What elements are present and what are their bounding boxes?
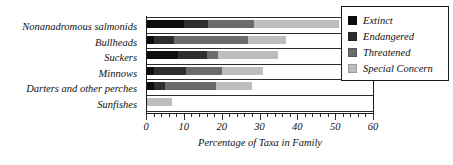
legend-swatch-endangered [348,32,357,41]
legend-swatch-special-concern [348,64,357,73]
x-tick-label: 0 [143,121,148,133]
bar-segment-threatened [208,20,253,28]
x-axis-ticks [146,114,374,120]
bar-segment-endangered [178,51,206,59]
bar-segment-endangered [154,36,175,44]
bar-segment-special-concern [248,36,286,44]
bar-segment-extinct [146,82,154,90]
chart-legend: Extinct Endangered Threatened Special Co… [341,6,449,81]
category-axis-labels: Nonanadromous salmonidsBullheadsSuckersM… [0,18,141,112]
row-separator-line [146,48,373,49]
stacked-bar-chart: Nonanadromous salmonidsBullheadsSuckersM… [0,0,453,165]
x-tick-minor [350,114,351,117]
legend-item-special-concern: Special Concern [348,60,444,76]
bar-suckers [146,51,278,59]
bar-segment-endangered [154,67,186,75]
x-tick-label: 50 [330,121,341,133]
x-tick-minor [154,114,155,117]
category-label: Sunfishes [0,99,137,110]
x-tick-label: 60 [368,121,379,133]
x-tick-minor [176,114,177,117]
x-axis-tick-labels: 0102030405060 [146,121,374,135]
x-tick-major [184,114,185,120]
row-separator-line [146,111,373,112]
legend-item-endangered: Endangered [348,28,444,44]
legend-item-extinct: Extinct [348,12,444,28]
row-separator-line [146,64,373,65]
x-axis-title: Percentage of Taxa in Family [146,137,374,148]
x-tick-minor [290,114,291,117]
x-tick-minor [328,114,329,117]
bar-segment-special-concern [222,67,264,75]
y-axis-line [146,16,147,114]
x-tick-minor [237,114,238,117]
legend-label-threatened: Threatened [363,47,410,58]
x-tick-label: 20 [216,121,227,133]
x-tick-minor [214,114,215,117]
row-separator-line [146,17,373,18]
legend-item-threatened: Threatened [348,44,444,60]
x-tick-minor [244,114,245,117]
category-label: Bullheads [0,37,137,48]
x-tick-minor [169,114,170,117]
bar-segment-threatened [165,82,216,90]
bar-segment-special-concern [218,51,279,59]
category-label: Suckers [0,52,137,63]
bar-segment-endangered [154,82,165,90]
legend-swatch-threatened [348,48,357,57]
x-tick-major [222,114,223,120]
bar-minnows [146,67,263,75]
row-separator-line [146,95,373,96]
x-tick-minor [282,114,283,117]
x-tick-label: 30 [254,121,265,133]
legend-swatch-extinct [348,16,357,25]
bar-segment-extinct [146,36,154,44]
x-tick-minor [199,114,200,117]
bar-segment-threatened [207,51,218,59]
bar-bullheads [146,36,286,44]
x-tick-major [373,114,374,120]
x-tick-label: 40 [292,121,303,133]
x-tick-minor [161,114,162,117]
bar-segment-endangered [184,20,209,28]
x-tick-major [297,114,298,120]
x-tick-label: 10 [179,121,190,133]
row-separator-line [146,79,373,80]
x-tick-minor [343,114,344,117]
legend-label-endangered: Endangered [363,31,414,42]
x-tick-minor [358,114,359,117]
category-label: Darters and other perches [0,83,137,94]
bar-darters-and-other-perches [146,82,252,90]
x-tick-minor [267,114,268,117]
bar-segment-extinct [146,67,154,75]
x-tick-minor [207,114,208,117]
legend-label-special-concern: Special Concern [363,63,433,74]
x-tick-minor [229,114,230,117]
x-tick-minor [305,114,306,117]
x-tick-minor [191,114,192,117]
bar-segment-special-concern [254,20,339,28]
x-tick-minor [365,114,366,117]
x-tick-minor [252,114,253,117]
plot-area [146,18,373,112]
x-tick-minor [312,114,313,117]
bar-segment-extinct [146,51,178,59]
x-tick-major [260,114,261,120]
row-separator-line [146,33,373,34]
x-tick-minor [275,114,276,117]
bar-segment-extinct [146,20,184,28]
category-label: Nonanadromous salmonids [0,21,137,32]
bar-nonanadromous-salmonids [146,20,339,28]
x-tick-major [335,114,336,120]
bar-segment-special-concern [216,82,252,90]
bar-sunfishes [146,98,172,106]
category-label: Minnows [0,68,137,79]
x-tick-major [146,114,147,120]
bar-segment-threatened [174,36,248,44]
legend-label-extinct: Extinct [363,15,393,26]
bar-segment-special-concern [146,98,172,106]
bar-segment-threatened [186,67,222,75]
x-tick-minor [320,114,321,117]
